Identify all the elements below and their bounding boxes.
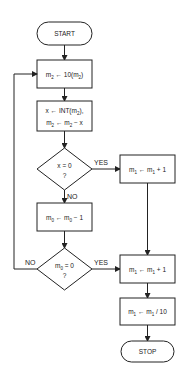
start-terminal: START (37, 22, 92, 45)
edge-check-m0-no-loop (14, 74, 37, 269)
decision-check-m0: m0 = 0 ? (37, 248, 92, 290)
check-m0-line2: ? (63, 272, 67, 279)
flowchart-canvas: START m2 ← 10(m2) x ← INT(m2), m2 ← m2 −… (0, 0, 187, 376)
process-split-int: x ← INT(m2), m2 ← m2 − x (37, 101, 92, 131)
check-x-line2: ? (63, 172, 67, 179)
check-m0-no-label: NO (25, 259, 36, 266)
stop-terminal: STOP (121, 341, 174, 362)
process-inc-m1-b: m1 ← m1 + 1 (120, 255, 175, 283)
check-m0-yes-label: YES (94, 259, 108, 266)
check-x-yes-label: YES (94, 159, 108, 166)
decision-check-x: x = 0 ? (37, 148, 92, 190)
check-x-no-label: NO (67, 193, 78, 200)
stop-label: STOP (139, 348, 157, 355)
process-scale-m2: m2 ← 10(m2) (37, 60, 92, 88)
process-div-m1: m1 ← m1 / 10 (120, 298, 175, 325)
check-x-line1: x = 0 (57, 162, 72, 169)
start-label: START (54, 30, 75, 37)
process-dec-m0: m0 ← m0 − 1 (37, 203, 92, 231)
process-inc-m1-a: m1 ← m1 + 1 (120, 155, 175, 183)
